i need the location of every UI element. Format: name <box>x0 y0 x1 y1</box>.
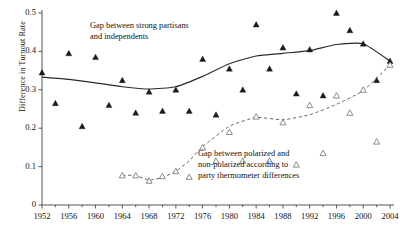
data-point <box>253 114 259 119</box>
data-point <box>280 45 286 50</box>
annotation-strong-partisans: Gap between strong partisansand independ… <box>90 20 189 42</box>
annotation-line: non-polarized according to <box>198 159 299 170</box>
annotation-line: and independents <box>90 31 189 42</box>
data-point <box>213 112 219 117</box>
y-tick-label: 0.3 <box>10 84 36 94</box>
data-point <box>159 108 165 113</box>
data-point <box>159 173 165 178</box>
data-point <box>226 66 232 71</box>
annotation-line: Gap between polarized and <box>198 148 299 159</box>
data-point <box>320 93 326 98</box>
data-point <box>79 123 85 128</box>
data-point <box>133 110 139 115</box>
data-point <box>226 129 232 134</box>
turnout-gap-chart: Difference in Turnout Rate 00.10.20.30.4… <box>0 0 406 234</box>
data-point <box>293 91 299 96</box>
trend-line <box>42 43 390 89</box>
chart-plot-area <box>0 0 406 234</box>
data-point <box>106 102 112 107</box>
y-tick-label: 0 <box>10 199 36 209</box>
annotation-line: party thermometer differences <box>198 170 299 181</box>
annotation-polarized: Gap between polarized andnon-polarized a… <box>198 148 299 182</box>
data-point <box>333 10 339 15</box>
data-point <box>333 93 339 98</box>
data-point <box>186 174 192 179</box>
x-tick-label: 2004 <box>373 211 406 221</box>
data-point <box>374 139 380 144</box>
data-point <box>146 178 152 183</box>
annotation-line: Gap between strong partisans <box>90 20 189 31</box>
data-point <box>307 46 313 51</box>
y-tick-label: 0.1 <box>10 161 36 171</box>
data-point <box>307 102 313 107</box>
data-point <box>253 22 259 27</box>
data-point <box>119 77 125 82</box>
data-point <box>360 87 366 92</box>
data-point <box>200 56 206 61</box>
y-tick-label: 0.5 <box>10 7 36 17</box>
data-point <box>267 66 273 71</box>
data-point <box>186 108 192 113</box>
data-point <box>240 87 246 92</box>
data-point <box>280 119 286 124</box>
data-point <box>347 27 353 32</box>
data-point <box>93 54 99 59</box>
data-point <box>320 150 326 155</box>
data-point <box>39 70 45 75</box>
y-axis-label: Difference in Turnout Rate <box>18 0 27 137</box>
data-point <box>52 100 58 105</box>
y-tick-label: 0.4 <box>10 45 36 55</box>
data-point <box>133 172 139 177</box>
data-point <box>347 110 353 115</box>
data-point <box>66 50 72 55</box>
y-tick-label: 0.2 <box>10 122 36 132</box>
data-point <box>173 168 179 173</box>
